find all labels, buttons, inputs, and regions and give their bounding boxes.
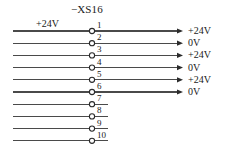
connector-designation-label: −XS16 (71, 4, 103, 15)
signal-label: 0V (188, 87, 200, 97)
source-voltage-label: +24V (36, 19, 59, 29)
arrow-head-icon (177, 89, 183, 94)
arrow-head-icon (177, 65, 183, 70)
arrow-head-icon (177, 77, 183, 82)
signal-label: 0V (188, 63, 200, 73)
signal-label: +24V (188, 75, 211, 85)
terminal-number-label: 5 (97, 70, 102, 79)
terminal-number-label: 2 (97, 33, 102, 42)
terminal-point-icon[interactable] (89, 41, 94, 46)
arrow-head-icon (177, 53, 183, 58)
terminal-point-icon[interactable] (89, 138, 94, 143)
terminal-point-icon[interactable] (89, 114, 94, 119)
terminal-number-label: 4 (97, 58, 102, 67)
terminal-point-icon[interactable] (89, 53, 94, 58)
terminal-number-label: 9 (97, 119, 102, 128)
terminal-number-label: 6 (97, 82, 102, 91)
terminal-point-icon[interactable] (89, 77, 94, 82)
arrow-head-icon (177, 28, 183, 33)
signal-label: +24V (188, 26, 211, 36)
signal-label: +24V (188, 50, 211, 60)
terminal-number-label: 10 (97, 131, 106, 140)
terminal-point-icon[interactable] (89, 89, 94, 94)
terminal-point-icon[interactable] (89, 126, 94, 131)
terminal-number-label: 3 (97, 45, 102, 54)
arrow-head-icon (177, 41, 183, 46)
terminal-point-icon[interactable] (89, 102, 94, 107)
terminal-number-label: 1 (97, 21, 102, 30)
signal-label: 0V (188, 38, 200, 48)
terminal-block-wiring-diagram: −XS16 +24V 12345678910 +24V0V+24V0V+24V0… (0, 0, 229, 156)
terminal-number-label: 8 (97, 106, 102, 115)
terminal-number-label: 7 (97, 94, 102, 103)
terminal-point-icon[interactable] (89, 65, 94, 70)
terminal-point-icon[interactable] (89, 28, 94, 33)
